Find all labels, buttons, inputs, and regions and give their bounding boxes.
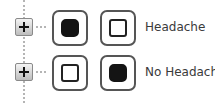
filled-square-icon <box>61 19 79 37</box>
state-box-1[interactable] <box>52 55 88 91</box>
tree-horizontal-connector <box>36 71 46 73</box>
node-label: No Headache <box>145 65 215 79</box>
expand-plus-icon[interactable] <box>15 18 33 36</box>
filled-square-icon <box>109 64 127 82</box>
tree-horizontal-connector <box>36 26 46 28</box>
node-label: Headache <box>145 20 205 34</box>
state-box-1[interactable] <box>52 10 88 46</box>
state-box-2[interactable] <box>100 10 136 46</box>
expand-plus-icon[interactable] <box>15 63 33 81</box>
hollow-square-icon <box>109 19 127 37</box>
hollow-square-icon <box>61 64 79 82</box>
node-row-no-headache: No Headache <box>0 53 215 93</box>
node-row-headache: Headache <box>0 8 215 48</box>
state-box-2[interactable] <box>100 55 136 91</box>
